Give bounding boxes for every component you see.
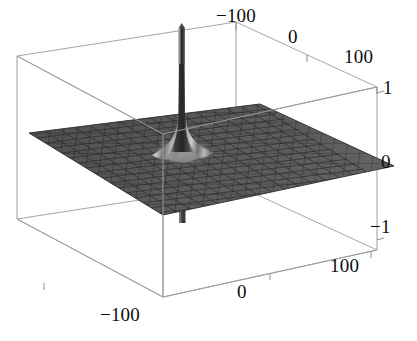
tick-label-y-0: 0 — [288, 27, 298, 46]
tick-label-x-100: 100 — [330, 256, 359, 275]
tick-label-y-100: 100 — [344, 47, 373, 66]
central-singularity — [150, 23, 216, 166]
box-top-front-left — [17, 56, 163, 134]
surface-plot-figure: −100 0 100 1 0 −1 −100 0 100 — [0, 0, 417, 341]
box-bottom-front-left — [17, 219, 163, 297]
tick-label-z-neg1: −1 — [370, 217, 391, 236]
tick-label-x-0: 0 — [237, 282, 247, 301]
tick-label-z-1: 1 — [383, 78, 393, 97]
tick-label-y-neg100: −100 — [216, 6, 256, 25]
tick-label-z-0: 0 — [381, 152, 391, 171]
tick-label-x-neg100: −100 — [100, 305, 140, 324]
spike-tip — [179, 23, 185, 28]
spike-column-highlight — [179, 28, 181, 64]
tick-z-neg1 — [377, 238, 384, 240]
surface-plate — [29, 104, 394, 215]
